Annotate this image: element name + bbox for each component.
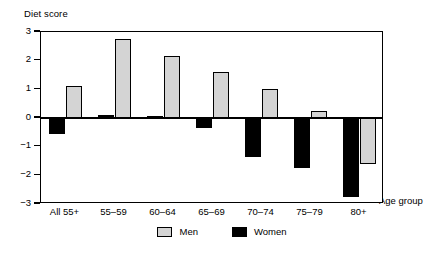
plot-area <box>40 31 383 203</box>
bar-men-4 <box>262 89 279 118</box>
legend: MenWomen <box>0 226 444 237</box>
bar-women-0 <box>49 118 66 134</box>
y-tick-mark <box>34 30 40 31</box>
y-tick-mark <box>34 145 40 146</box>
bar-women-5 <box>294 118 311 168</box>
bar-men-2 <box>164 56 181 118</box>
bar-women-4 <box>245 118 262 157</box>
y-axis-title: Diet score <box>24 8 68 19</box>
x-category-label: 75–79 <box>296 206 322 217</box>
y-tick-label: 0 <box>7 111 31 123</box>
x-axis-title: Age group <box>379 195 423 206</box>
legend-item-men: Men <box>157 226 197 237</box>
legend-item-women: Women <box>232 226 287 237</box>
bar-men-6 <box>360 118 377 164</box>
legend-label: Men <box>179 226 197 237</box>
x-category-label: 80+ <box>350 206 366 217</box>
y-tick-label: −3 <box>7 197 31 209</box>
y-tick-mark <box>34 174 40 175</box>
y-tick-mark <box>34 59 40 60</box>
chart-container: Diet score Age group 3210−1−2−3 All 55+5… <box>0 0 444 253</box>
y-tick-mark <box>34 116 40 117</box>
x-category-label: 70–74 <box>247 206 273 217</box>
y-tick-mark <box>34 202 40 203</box>
x-category-label: 65–69 <box>198 206 224 217</box>
bar-women-2 <box>147 116 164 118</box>
bar-men-5 <box>311 111 328 118</box>
x-category-label: All 55+ <box>50 206 79 217</box>
bar-women-1 <box>98 115 115 118</box>
y-tick-label: −1 <box>7 139 31 151</box>
bar-men-3 <box>213 72 230 118</box>
bar-men-0 <box>66 86 83 118</box>
y-tick-mark <box>34 88 40 89</box>
y-tick-label: 3 <box>7 25 31 37</box>
y-tick-label: 2 <box>7 53 31 65</box>
legend-swatch-women <box>232 227 247 237</box>
bar-women-6 <box>343 118 360 197</box>
bar-women-3 <box>196 118 213 128</box>
legend-swatch-men <box>157 227 172 237</box>
bar-men-1 <box>115 39 132 118</box>
x-category-label: 60–64 <box>149 206 175 217</box>
y-tick-label: 1 <box>7 82 31 94</box>
y-tick-label: −2 <box>7 168 31 180</box>
legend-label: Women <box>254 226 287 237</box>
x-category-label: 55–59 <box>100 206 126 217</box>
